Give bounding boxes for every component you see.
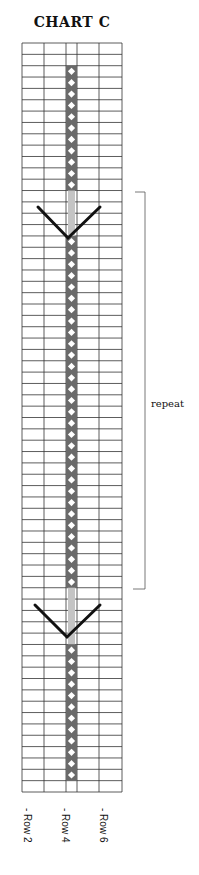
row-label-2: - Row 2 (22, 808, 33, 842)
stitch-column (66, 66, 77, 781)
repeat-label: repeat (151, 398, 184, 409)
row-label-4: - Row 4 (60, 808, 71, 842)
knitting-chart (0, 0, 199, 875)
row-label-6: - Row 6 (98, 808, 109, 842)
repeat-bracket (133, 192, 145, 589)
